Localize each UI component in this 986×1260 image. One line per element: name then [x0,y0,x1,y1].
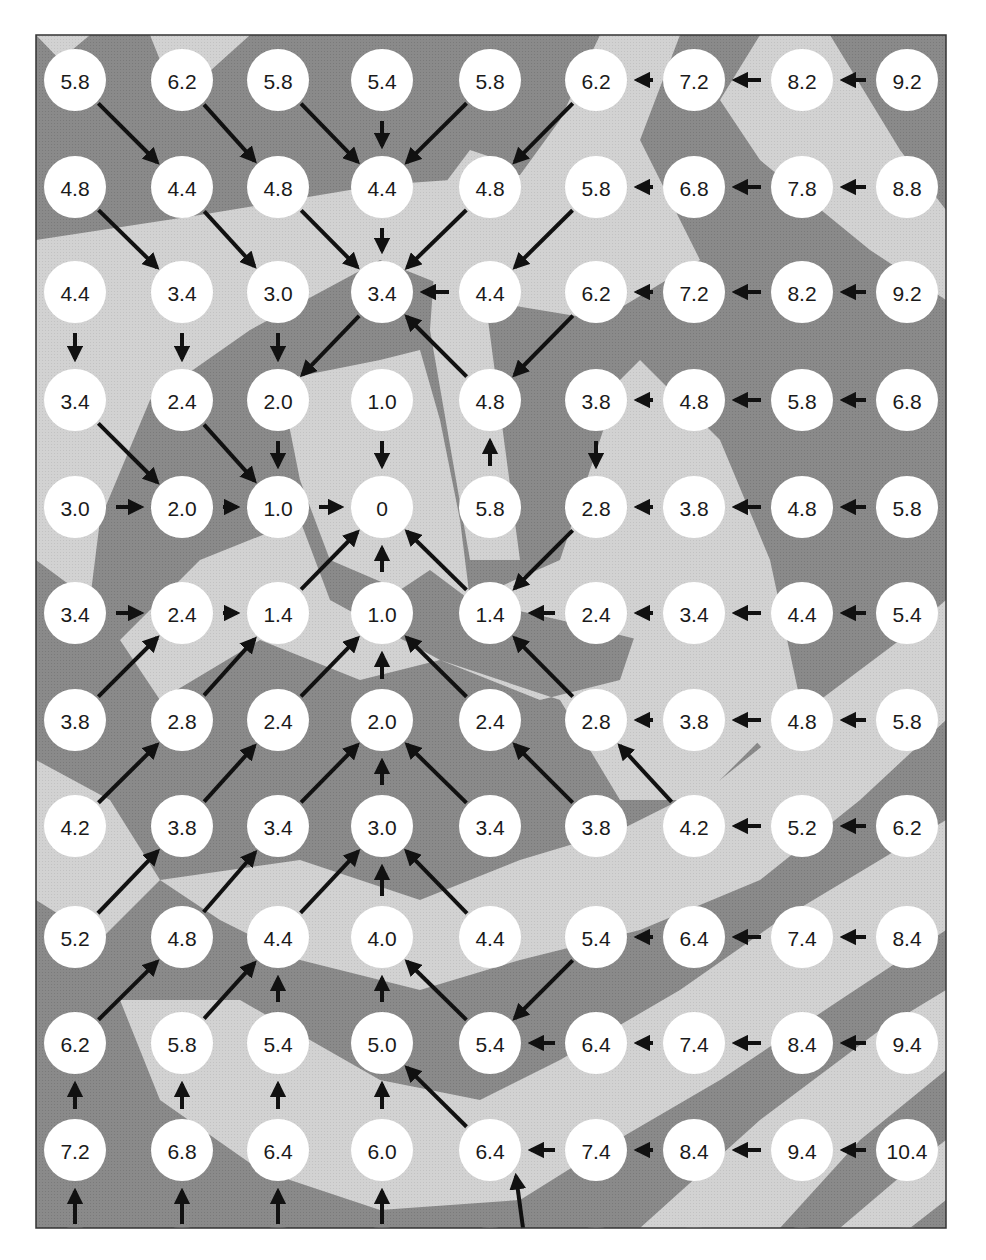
node-value: 1.0 [367,603,396,626]
grid-node: 5.2 [44,906,106,968]
node-value: 4.8 [679,390,708,413]
grid-node: 5.4 [459,1012,521,1074]
node-value: 4.0 [367,927,396,950]
grid-node: 4.4 [459,261,521,323]
grid-node: 4.4 [351,156,413,218]
node-value: 2.0 [367,710,396,733]
node-value: 6.4 [679,927,709,950]
node-value: 6.2 [167,70,196,93]
node-value: 6.8 [167,1140,196,1163]
grid-node: 2.4 [565,582,627,644]
node-value: 4.8 [167,927,196,950]
node-value: 3.4 [60,603,90,626]
grid-node: 2.0 [351,689,413,751]
grid-node: 4.8 [459,369,521,431]
grid-node: 6.4 [565,1012,627,1074]
grid-node: 6.2 [565,49,627,111]
node-value: 2.4 [581,603,611,626]
grid-node: 5.4 [876,582,938,644]
node-value: 4.4 [263,927,293,950]
grid-node: 2.8 [151,689,213,751]
grid-node: 5.4 [247,1012,309,1074]
node-value: 5.4 [581,927,611,950]
grid-node: 4.8 [663,369,725,431]
node-value: 4.8 [787,710,816,733]
node-value: 6.2 [581,282,610,305]
node-value: 1.0 [263,497,292,520]
grid-node: 5.4 [565,906,627,968]
grid-node: 4.8 [459,156,521,218]
node-value: 2.4 [167,390,197,413]
grid-node: 6.2 [565,261,627,323]
grid-node: 6.8 [151,1119,213,1181]
node-value: 5.8 [60,70,89,93]
grid-node: 3.4 [351,261,413,323]
node-value: 3.0 [367,816,396,839]
grid-node: 5.8 [151,1012,213,1074]
grid-node: 6.2 [44,1012,106,1074]
node-value: 7.4 [679,1033,709,1056]
grid-node: 4.8 [44,156,106,218]
node-value: 8.4 [679,1140,709,1163]
node-value: 7.2 [679,70,708,93]
node-value: 8.4 [892,927,922,950]
grid-node: 5.8 [44,49,106,111]
node-value: 10.4 [887,1140,928,1163]
grid-node: 3.0 [351,795,413,857]
grid-node: 4.4 [771,582,833,644]
node-value: 6.2 [60,1033,89,1056]
node-value: 2.8 [167,710,196,733]
node-value: 9.4 [892,1033,922,1056]
grid-node: 4.4 [459,906,521,968]
node-value: 3.8 [679,710,708,733]
node-value: 3.4 [60,390,90,413]
node-value: 3.4 [167,282,197,305]
grid-node: 4.8 [771,476,833,538]
grid-node: 5.4 [351,49,413,111]
node-value: 4.2 [679,816,708,839]
grid-node: 2.4 [459,689,521,751]
node-value: 5.8 [787,390,816,413]
grid-node: 8.2 [771,261,833,323]
grid-node: 6.4 [663,906,725,968]
grid-node: 5.0 [351,1012,413,1074]
node-value: 9.4 [787,1140,817,1163]
grid-node: 1.0 [247,476,309,538]
grid-node: 7.8 [771,156,833,218]
node-value: 5.4 [263,1033,293,1056]
node-value: 5.8 [892,497,921,520]
node-value: 4.8 [60,177,89,200]
grid-node: 7.4 [565,1119,627,1181]
node-value: 3.8 [581,390,610,413]
grid-node: 3.4 [44,582,106,644]
grid-node: 9.4 [876,1012,938,1074]
node-value: 5.8 [263,70,292,93]
grid-node: 2.0 [247,369,309,431]
node-value: 5.0 [367,1033,396,1056]
grid-node: 3.4 [44,369,106,431]
grid-node: 3.8 [44,689,106,751]
node-value: 2.8 [581,497,610,520]
grid-node: 3.8 [663,689,725,751]
node-value: 6.4 [475,1140,505,1163]
grid-node: 2.4 [247,689,309,751]
node-value: 6.2 [892,816,921,839]
grid-node: 4.2 [44,795,106,857]
grid-node: 3.4 [663,582,725,644]
grid-node: 1.4 [247,582,309,644]
grid-node: 4.0 [351,906,413,968]
grid-node: 3.4 [151,261,213,323]
node-value: 4.4 [475,282,505,305]
grid-node: 6.4 [459,1119,521,1181]
node-value: 5.8 [581,177,610,200]
node-value: 2.0 [263,390,292,413]
node-value: 4.4 [367,177,397,200]
grid-node: 2.4 [151,369,213,431]
goal-node: 0 [351,476,413,538]
node-value: 5.8 [475,70,504,93]
node-value: 4.4 [167,177,197,200]
grid-node: 7.2 [663,261,725,323]
grid-node: 4.4 [44,261,106,323]
node-value: 2.4 [167,603,197,626]
node-value: 4.4 [787,603,817,626]
